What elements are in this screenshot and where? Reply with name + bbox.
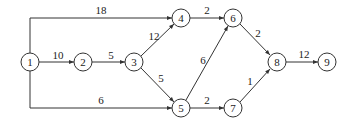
node-label: 1 <box>27 56 33 68</box>
node-9: 9 <box>318 53 336 71</box>
edge-label-5-7: 2 <box>204 94 210 106</box>
edge-label-1-5: 6 <box>98 94 104 106</box>
edge-label-5-6: 6 <box>200 54 206 66</box>
node-label: 9 <box>324 56 330 68</box>
nodes: 1 2 3 4 5 6 7 8 <box>21 9 336 117</box>
node-2: 2 <box>74 53 92 71</box>
node-8: 8 <box>268 53 286 71</box>
node-label: 6 <box>230 12 236 24</box>
edge-label-3-4: 12 <box>149 30 160 42</box>
edge-label-1-4: 18 <box>96 4 108 16</box>
node-1: 1 <box>21 53 39 71</box>
node-label: 7 <box>230 102 236 114</box>
network-diagram: 18 10 6 5 12 5 2 6 2 2 1 12 1 2 3 4 <box>0 0 353 128</box>
edge-label-6-8: 2 <box>255 27 261 39</box>
node-4: 4 <box>172 9 190 27</box>
node-7: 7 <box>224 99 242 117</box>
edge-5-6 <box>186 26 228 100</box>
node-3: 3 <box>125 53 143 71</box>
edge-label-4-6: 2 <box>204 4 210 16</box>
edge-label-7-8: 1 <box>247 75 253 87</box>
node-label: 3 <box>131 56 137 68</box>
edge-label-8-9: 12 <box>299 48 310 60</box>
edge-label-1-2: 10 <box>53 49 65 61</box>
node-5: 5 <box>172 99 190 117</box>
node-label: 2 <box>80 56 86 68</box>
node-label: 5 <box>178 102 184 114</box>
node-6: 6 <box>224 9 242 27</box>
edge-label-3-5: 5 <box>158 72 164 84</box>
edge-7-8 <box>240 69 270 102</box>
edge-label-2-3: 5 <box>108 49 114 61</box>
node-label: 8 <box>274 56 280 68</box>
node-label: 4 <box>178 12 184 24</box>
